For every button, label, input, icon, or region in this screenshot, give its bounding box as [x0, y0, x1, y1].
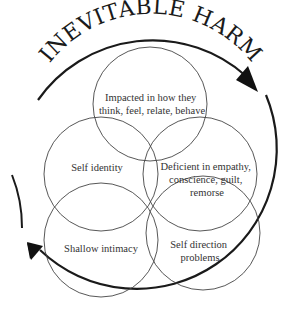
circle-shallow-intimacy: [44, 183, 158, 297]
circle-top: [93, 47, 207, 161]
label-deficient: Deficient in empathy, conscience, guilt,…: [160, 161, 253, 198]
circle-self-identity: [44, 117, 158, 231]
label-top: Impacted in how they think, feel, relate…: [99, 92, 205, 116]
label-shallow-intimacy: Shallow intimacy: [64, 243, 139, 254]
diagram-title: INEVITABLE HARM: [34, 0, 267, 67]
cycle-arrow-lower: [12, 95, 277, 289]
inevitable-harm-diagram: INEVITABLE HARM Impacted in how they thi…: [0, 0, 300, 324]
label-self-identity: Self identity: [71, 162, 123, 173]
